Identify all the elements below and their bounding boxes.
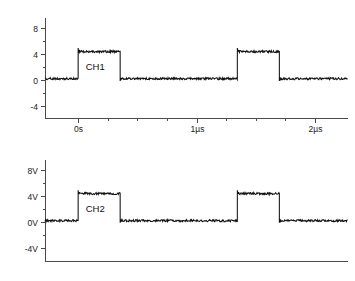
y-tick-label: 0 — [33, 76, 38, 86]
y-tick-label: 8V — [28, 166, 39, 176]
y-tick-label: 0V — [28, 218, 39, 228]
channel-label-ch2: CH2 — [86, 203, 105, 214]
y-tick-label: 4V — [28, 192, 39, 202]
channel-label-ch1: CH1 — [86, 61, 105, 72]
panel-ch2: 8V4V0V-4VCH2 — [25, 160, 348, 261]
y-tick-label: 8 — [33, 24, 38, 34]
panel-ch1: 840-40s1µs2µsCH1 — [30, 18, 348, 134]
x-tick-label: 0s — [74, 124, 83, 134]
oscilloscope-figure: 840-40s1µs2µsCH18V4V0V-4VCH2 — [0, 0, 355, 281]
x-tick-label: 2µs — [309, 124, 323, 134]
y-tick-label: -4V — [25, 244, 39, 254]
y-tick-label: -4 — [30, 102, 38, 112]
scope-svg: 840-40s1µs2µsCH18V4V0V-4VCH2 — [0, 0, 355, 281]
x-tick-label: 1µs — [191, 124, 205, 134]
y-tick-label: 4 — [33, 50, 38, 60]
